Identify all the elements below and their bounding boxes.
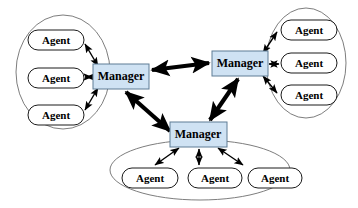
agent-right-1-shape[interactable] [281, 20, 337, 40]
agent-left-3[interactable]: Agent [28, 105, 84, 125]
agent-left-2[interactable]: Agent [28, 68, 84, 88]
agent-bottom-1-shape[interactable] [122, 168, 178, 188]
agent-nodes: Agent Agent Agent Agent Agent Agent [28, 20, 337, 188]
manager-left[interactable]: Manager [93, 64, 149, 89]
manager-bottom-shape[interactable] [170, 122, 227, 147]
manager-right-shape[interactable] [212, 51, 268, 76]
agent-bottom-1[interactable]: Agent [122, 168, 178, 188]
link-manager-left-agent-left-3 [85, 88, 98, 110]
agent-left-3-shape[interactable] [28, 105, 84, 125]
link-manager-left-manager-bottom [126, 92, 170, 131]
agent-bottom-3[interactable]: Agent [248, 168, 302, 188]
agent-bottom-2[interactable]: Agent [188, 168, 242, 188]
agent-bottom-3-shape[interactable] [248, 168, 302, 188]
multi-agent-diagram: Agent Agent Agent Agent Agent Agent [0, 0, 358, 208]
link-manager-bottom-agent-bottom-3 [218, 148, 243, 165]
agent-right-2-shape[interactable] [281, 53, 337, 73]
agent-left-1-shape[interactable] [28, 30, 84, 50]
agent-right-1[interactable]: Agent [281, 20, 337, 40]
agent-right-3[interactable]: Agent [281, 85, 337, 105]
agent-right-3-shape[interactable] [281, 85, 337, 105]
agent-bottom-2-shape[interactable] [188, 168, 242, 188]
link-manager-right-agent-right-3 [263, 76, 277, 93]
link-manager-bottom-agent-bottom-1 [155, 148, 179, 165]
agent-left-1[interactable]: Agent [28, 30, 84, 50]
link-manager-right-agent-right-1 [263, 32, 277, 53]
diagram-canvas: Agent Agent Agent Agent Agent Agent [0, 0, 358, 208]
agent-left-2-shape[interactable] [28, 68, 84, 88]
link-manager-left-manager-right [152, 63, 209, 70]
manager-bottom[interactable]: Manager [170, 122, 227, 147]
agent-right-2[interactable]: Agent [281, 53, 337, 73]
link-manager-left-agent-left-1 [85, 44, 98, 66]
link-manager-right-manager-bottom [210, 79, 238, 120]
manager-right[interactable]: Manager [212, 51, 268, 76]
manager-left-shape[interactable] [93, 64, 149, 89]
